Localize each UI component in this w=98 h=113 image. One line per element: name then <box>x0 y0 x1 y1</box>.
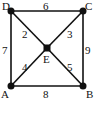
edge-weight-label: 7 <box>2 44 8 56</box>
edge-B-E <box>47 48 83 86</box>
edge-A-E <box>11 48 47 86</box>
edge-weight-label: 5 <box>67 61 73 73</box>
edge-weight-label: 2 <box>22 28 28 40</box>
node-E <box>44 45 51 52</box>
node-label: E <box>43 53 50 65</box>
edge-weight-label: 8 <box>43 88 49 100</box>
edge-weight-label: 3 <box>67 28 73 40</box>
edge-D-E <box>11 11 47 48</box>
edge-C-E <box>47 11 83 48</box>
edge-weight-label: 4 <box>22 61 28 73</box>
node-label: A <box>1 88 9 100</box>
edge-weight-label: 6 <box>43 0 49 12</box>
node-label: B <box>86 88 93 100</box>
node-label: D <box>2 0 10 12</box>
weighted-graph-diagram: 67982345DCABE <box>0 0 98 113</box>
node-label: C <box>85 0 92 12</box>
edge-weight-label: 9 <box>85 44 91 56</box>
